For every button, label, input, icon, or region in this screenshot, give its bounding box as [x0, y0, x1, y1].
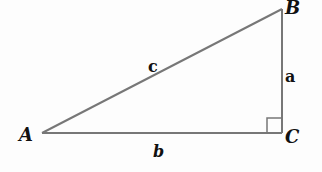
vertex-label-a: A: [17, 124, 33, 145]
side-label-b: b: [153, 142, 164, 161]
side-label-c: c: [148, 57, 158, 76]
side-label-a: a: [285, 67, 295, 86]
vertex-label-b: B: [284, 0, 300, 18]
side-c-line: [42, 9, 282, 133]
triangle-diagram: A B C c a b: [0, 0, 322, 172]
vertex-label-c: C: [285, 126, 300, 147]
right-angle-marker: [267, 118, 282, 133]
triangle-svg: A B C c a b: [0, 0, 322, 172]
